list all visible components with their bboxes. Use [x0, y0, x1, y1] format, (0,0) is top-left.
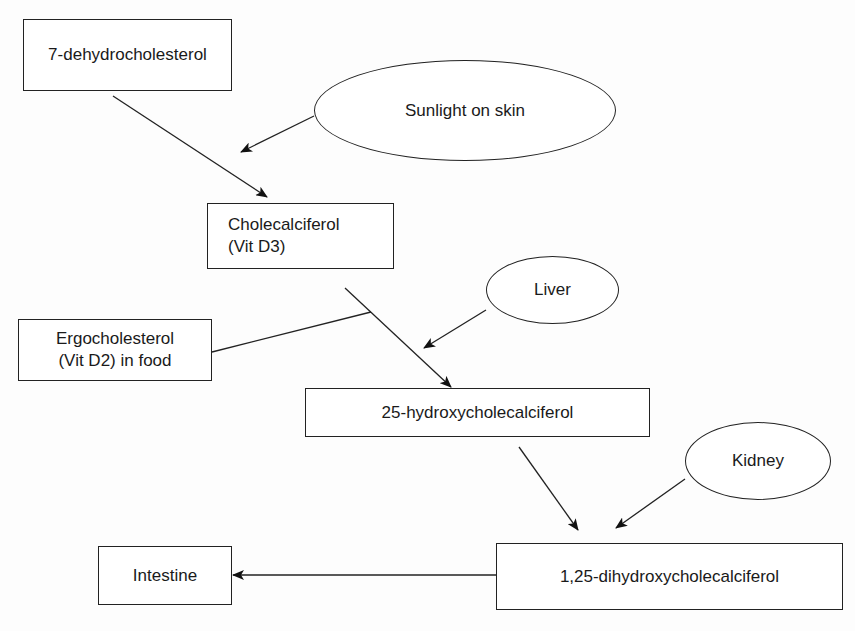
- node-label: 1,25-dihydroxycholecalciferol: [560, 566, 779, 588]
- node-label: 25-hydroxycholecalciferol: [382, 402, 574, 424]
- node-kidney: Kidney: [685, 422, 831, 500]
- node-intestine: Intestine: [98, 546, 232, 605]
- vitamin-d-metabolism-diagram: 7-dehydrocholesterol Sunlight on skin Ch…: [0, 0, 855, 631]
- arrow-cholecalciferol-to-hydroxy: [345, 288, 451, 387]
- node-cholecalciferol: Cholecalciferol (Vit D3): [207, 203, 394, 269]
- node-liver: Liver: [486, 256, 619, 324]
- node-sunlight-on-skin: Sunlight on skin: [314, 60, 616, 161]
- node-25-hydroxycholecalciferol: 25-hydroxycholecalciferol: [305, 388, 650, 437]
- arrow-liver: [424, 310, 486, 348]
- node-label-line1: Ergocholesterol: [56, 328, 174, 350]
- node-7-dehydrocholesterol: 7-dehydrocholesterol: [23, 19, 232, 91]
- arrow-dehydro-to-cholecalciferol: [113, 96, 267, 197]
- node-label: Kidney: [732, 451, 784, 471]
- node-label: 7-dehydrocholesterol: [48, 44, 207, 66]
- node-label-line2: (Vit D3): [228, 236, 340, 258]
- line-ergocholesterol-join: [212, 312, 371, 352]
- node-label: Intestine: [133, 565, 197, 587]
- node-label: Sunlight on skin: [405, 101, 525, 121]
- node-label-line1: Cholecalciferol: [228, 214, 340, 236]
- node-label: Liver: [534, 280, 571, 300]
- node-1-25-dihydroxycholecalciferol: 1,25-dihydroxycholecalciferol: [496, 543, 843, 610]
- arrow-sunlight: [241, 116, 314, 152]
- arrow-hydroxy-to-dihydroxy: [519, 447, 578, 530]
- node-label-line2: (Vit D2) in food: [56, 350, 174, 372]
- arrow-kidney: [616, 479, 685, 528]
- node-ergocholesterol: Ergocholesterol (Vit D2) in food: [18, 319, 212, 381]
